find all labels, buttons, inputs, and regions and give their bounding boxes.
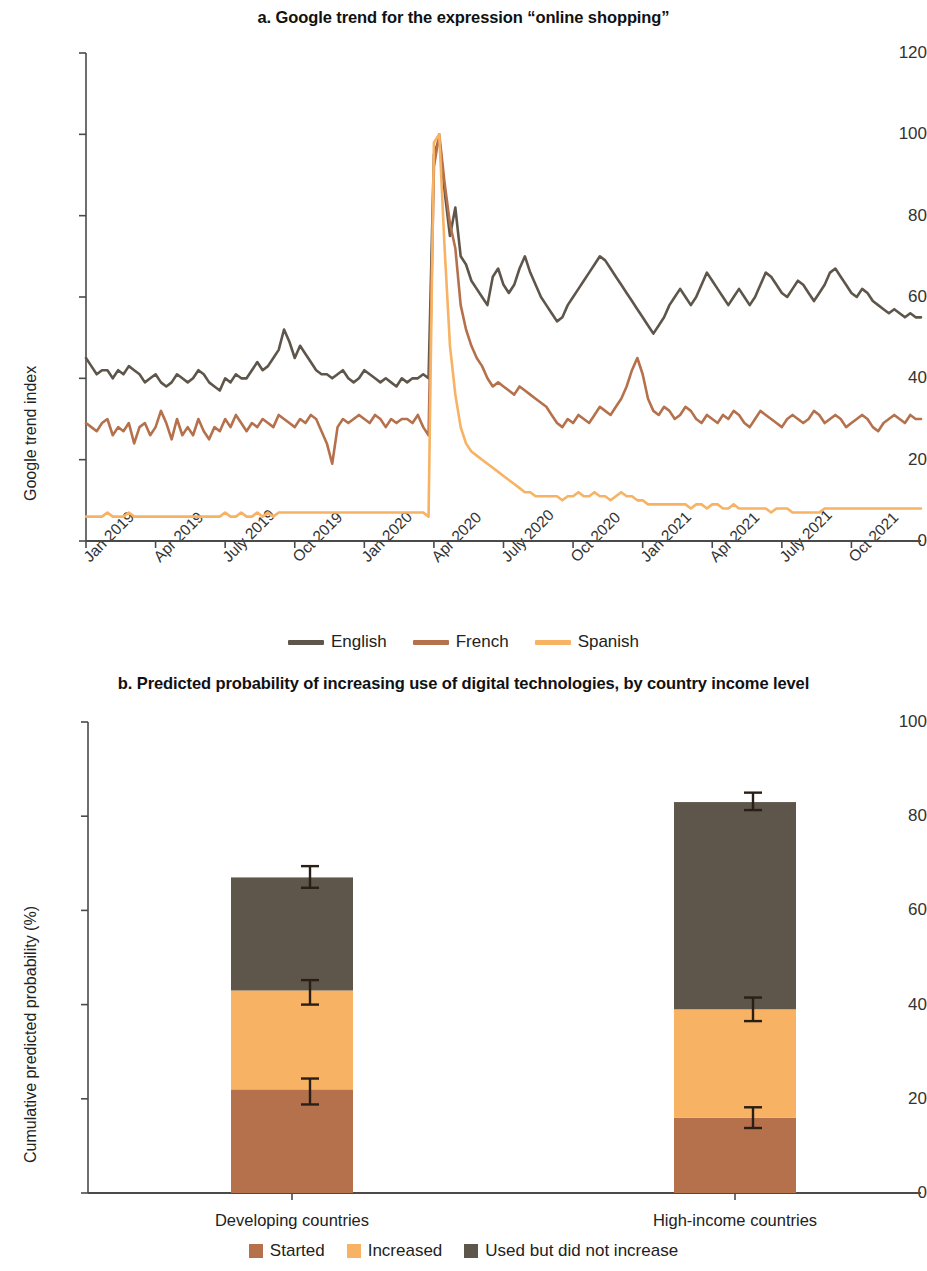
panel-a-line-chart [0, 0, 927, 620]
legend-item-used-but-did-not-increase[interactable]: Used but did not increase [464, 1241, 678, 1261]
legend-item-spanish[interactable]: Spanish [535, 632, 639, 652]
legend-line-icon [288, 640, 324, 645]
panel-a-legend: EnglishFrenchSpanish [0, 632, 927, 652]
legend-item-increased[interactable]: Increased [347, 1241, 443, 1261]
bar-segment [674, 1009, 796, 1117]
legend-item-french[interactable]: French [413, 632, 509, 652]
legend-swatch-icon [347, 1244, 361, 1258]
bar-segment [231, 877, 353, 990]
legend-label: Spanish [578, 632, 639, 652]
panel-a-series-french [86, 134, 921, 463]
legend-label: English [331, 632, 387, 652]
panel-a-series-spanish [86, 134, 921, 516]
panel-b-legend: StartedIncreasedUsed but did not increas… [0, 1241, 927, 1261]
legend-label: Increased [368, 1241, 443, 1261]
bar-segment [231, 1089, 353, 1193]
legend-line-icon [413, 640, 449, 645]
legend-label: French [456, 632, 509, 652]
legend-label: Started [270, 1241, 325, 1261]
legend-item-started[interactable]: Started [249, 1241, 325, 1261]
panel-a-plot-area: Google trend index 020406080100120 Jan 2… [0, 0, 927, 620]
panel-a-google-trend: a. Google trend for the expression “onli… [0, 0, 927, 672]
bar-category-label: Developing countries [215, 1211, 369, 1230]
bar-segment [674, 802, 796, 1009]
legend-swatch-icon [464, 1244, 478, 1258]
legend-line-icon [535, 640, 571, 645]
panel-b-bar-chart [0, 672, 927, 1232]
legend-label: Used but did not increase [485, 1241, 678, 1261]
legend-swatch-icon [249, 1244, 263, 1258]
panel-b-predicted-probability: b. Predicted probability of increasing u… [0, 672, 927, 1271]
bar-segment [231, 990, 353, 1089]
legend-item-english[interactable]: English [288, 632, 387, 652]
panel-a-series-english [86, 138, 921, 390]
bar-category-label: High-income countries [653, 1211, 817, 1230]
bar-segment [674, 1118, 796, 1193]
panel-b-plot-area: Cumulative predicted probability (%) 020… [0, 672, 927, 1232]
